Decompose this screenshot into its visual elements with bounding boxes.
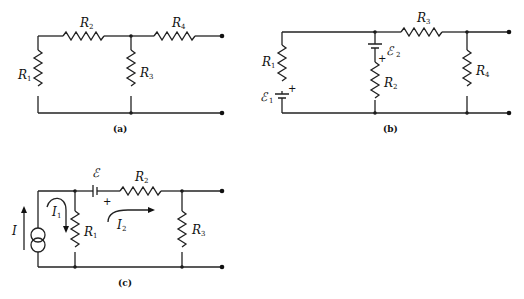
resistor-r4-a (154, 32, 195, 40)
label-r4-b: R (475, 64, 485, 78)
label-e2-sub: 2 (396, 51, 400, 59)
battery-e (93, 185, 97, 197)
label-r3-c: R (191, 223, 201, 237)
terminal-top-b (507, 30, 512, 35)
circuit-b: + + R 1 ℰ 1 ℰ 2 R 2 R 3 (260, 11, 511, 134)
label-e1: ℰ (260, 90, 269, 104)
terminal-bottom-b (507, 111, 512, 116)
label-r3-b: R (416, 11, 426, 25)
caption-b: (b) (383, 124, 398, 134)
label-r2-b-sub: 2 (393, 83, 397, 91)
resistor-r2-c (120, 187, 161, 195)
label-r1-a: R (17, 68, 27, 82)
circuit-a: R 1 R 2 R 3 R 4 (a) (17, 16, 224, 134)
label-r2-c-sub: 2 (144, 177, 148, 185)
battery-e1 (275, 94, 289, 98)
label-r2-c: R (134, 170, 144, 184)
resistor-r1-b (278, 45, 286, 81)
terminal-top-c (220, 189, 225, 194)
label-r4-a-sub: 4 (181, 23, 186, 31)
current-source-lower-circle (31, 238, 45, 252)
label-r2-b: R (383, 76, 393, 90)
label-r3-a-sub: 3 (149, 73, 153, 81)
label-r3-a: R (139, 66, 149, 80)
label-r3-b-sub: 3 (426, 18, 430, 26)
caption-c: (c) (118, 278, 132, 288)
terminal-bottom-a (220, 111, 225, 116)
plus-e1: + (288, 83, 296, 94)
label-e1-sub: 1 (269, 97, 273, 105)
label-r3-c-sub: 3 (201, 230, 205, 238)
label-e2: ℰ (386, 44, 395, 58)
label-i1-sub: 1 (57, 212, 61, 220)
label-r1-c-sub: 1 (93, 232, 97, 240)
resistor-r2-b (371, 62, 379, 98)
arrow-loop-i2 (108, 210, 150, 222)
label-r1-a-sub: 1 (27, 75, 31, 83)
label-i2-sub: 2 (122, 225, 126, 233)
terminal-bottom-c (220, 265, 225, 270)
terminal-top-a (220, 34, 225, 39)
resistor-r3-c (178, 211, 186, 247)
plus-e: + (103, 196, 111, 207)
label-r4-b-sub: 4 (485, 71, 490, 79)
label-r2-a: R (79, 16, 89, 30)
label-r1-c: R (83, 225, 93, 239)
label-r2-a-sub: 2 (89, 23, 93, 31)
resistor-r3-b (401, 28, 442, 36)
resistor-r1-a (34, 50, 42, 86)
caption-a: (a) (113, 124, 127, 134)
resistor-r3-a (127, 50, 135, 86)
resistor-r4-b (463, 50, 471, 86)
label-r4-a: R (171, 16, 181, 30)
label-i: I (11, 224, 17, 238)
label-r1-b-sub: 1 (271, 62, 275, 70)
circuit-figure-canvas: R 1 R 2 R 3 R 4 (a) + + (0, 0, 524, 299)
label-r1-b: R (261, 55, 271, 69)
resistor-r1-c (71, 211, 79, 247)
battery-e2 (368, 44, 382, 48)
resistor-r2-a (63, 32, 104, 40)
label-e: ℰ (92, 166, 101, 180)
circuit-c: + I I 1 R 1 I 2 ℰ R 2 R 3 (c) (11, 166, 224, 288)
